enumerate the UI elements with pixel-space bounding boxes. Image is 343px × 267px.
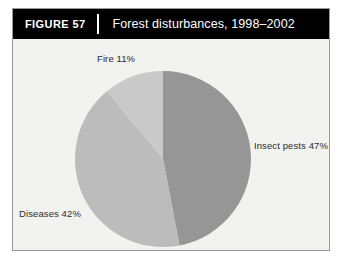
- figure-title: Forest disturbances, 1998–2002: [99, 17, 294, 31]
- figure-number-label: FIGURE 57: [13, 18, 97, 30]
- pie-slice-insect-pests: [163, 71, 251, 245]
- chart-plot-area: Fire 11% Insect pests 47% Diseases 42%: [13, 39, 329, 250]
- pie-label-diseases: Diseases 42%: [19, 208, 81, 219]
- figure-panel: FIGURE 57 Forest disturbances, 1998–2002…: [12, 8, 330, 251]
- pie-slice-group: [75, 71, 251, 247]
- pie-label-insect-pests: Insect pests 47%: [254, 140, 328, 151]
- figure-header-bar: FIGURE 57 Forest disturbances, 1998–2002: [13, 9, 329, 39]
- pie-label-fire: Fire 11%: [97, 53, 135, 64]
